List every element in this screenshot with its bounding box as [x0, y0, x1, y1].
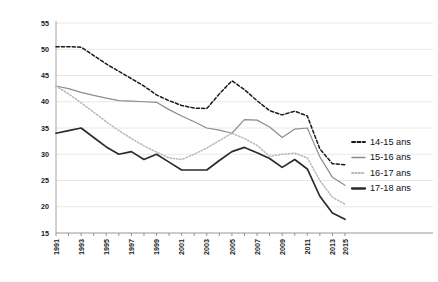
x-tick-label: 2007: [253, 239, 262, 255]
x-tick-label: 1991: [52, 239, 61, 255]
x-tick-label: 2003: [202, 239, 211, 255]
y-tick-label: 45: [41, 71, 49, 80]
y-tick-label: 55: [41, 19, 49, 28]
legend-label-17-18-ans: 17-18 ans: [370, 183, 411, 193]
x-tick-label: 1999: [152, 239, 161, 255]
x-tick-label: 2013: [328, 239, 337, 255]
x-tick-label: 1997: [127, 239, 136, 255]
series-line-14-15-ans: [56, 47, 345, 165]
series-line-17-18-ans: [56, 128, 345, 219]
y-tick-label: 20: [41, 202, 49, 211]
y-tick-labels: 152025303540455055: [41, 19, 49, 238]
y-tick-label: 50: [41, 45, 49, 54]
x-tick-label: 2001: [177, 239, 186, 255]
x-tick-label: 2009: [278, 239, 287, 255]
x-tick-label: 1993: [77, 239, 86, 255]
x-tick-label: 2005: [228, 239, 237, 255]
data-series-group: [56, 47, 345, 220]
line-chart: 152025303540455055 199119931995199719992…: [0, 0, 438, 282]
y-tick-label: 15: [41, 229, 49, 238]
x-axis: [56, 233, 433, 236]
y-tick-label: 40: [41, 97, 49, 106]
legend-label-16-17-ans: 16-17 ans: [370, 168, 411, 178]
gridlines: [56, 23, 433, 233]
chart-container: 152025303540455055 199119931995199719992…: [0, 0, 438, 282]
legend-label-15-16-ans: 15-16 ans: [370, 152, 411, 162]
y-tick-label: 30: [41, 150, 49, 159]
x-tick-label: 2015: [341, 239, 350, 255]
legend-label-14-15-ans: 14-15 ans: [370, 137, 411, 147]
x-tick-label: 2011: [303, 239, 312, 255]
x-tick-labels: 1991199319951997199920012003200520072009…: [52, 239, 350, 255]
chart-legend: 14-15 ans15-16 ans16-17 ans17-18 ans: [352, 137, 411, 194]
series-line-16-17-ans: [56, 86, 345, 204]
y-tick-label: 25: [41, 176, 49, 185]
x-tick-label: 1995: [102, 239, 111, 255]
y-tick-label: 35: [41, 124, 49, 133]
